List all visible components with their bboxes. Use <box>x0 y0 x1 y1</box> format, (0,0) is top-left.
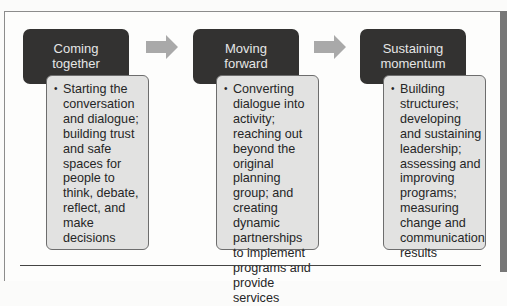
stage-3-title-line-1: Sustaining <box>360 41 466 56</box>
stage-2-description: Converting dialogue into activity; reach… <box>233 82 314 306</box>
stage-1-title-line-1: Coming <box>23 41 129 56</box>
stage-2-body: • Converting dialogue into activity; rea… <box>216 75 319 250</box>
arrow-right-icon <box>146 35 178 59</box>
stage-3-body: • Building structures; developing and su… <box>383 75 486 250</box>
stage-1-bullet: • Starting the conversation and dialogue… <box>54 82 144 246</box>
stage-3-bullet: • Building structures; developing and su… <box>391 82 481 261</box>
bullet-icon: • <box>391 82 400 261</box>
stage-3-title-line-2: momentum <box>360 56 466 71</box>
stage-3-description: Building structures; developing and sust… <box>400 82 485 261</box>
page-edge <box>500 11 507 272</box>
arrow-right-icon <box>314 35 346 59</box>
stage-1-description: Starting the conversation and dialogue; … <box>63 82 144 246</box>
bottom-rule <box>20 265 481 266</box>
stage-2-bullet: • Converting dialogue into activity; rea… <box>224 82 314 306</box>
stage-2-title-line-1: Moving <box>193 41 299 56</box>
stage-1-title-line-2: together <box>23 56 129 71</box>
bullet-icon: • <box>224 82 233 306</box>
bullet-icon: • <box>54 82 63 246</box>
stage-2-title-line-2: forward <box>193 56 299 71</box>
stage-1-body: • Starting the conversation and dialogue… <box>46 75 149 250</box>
